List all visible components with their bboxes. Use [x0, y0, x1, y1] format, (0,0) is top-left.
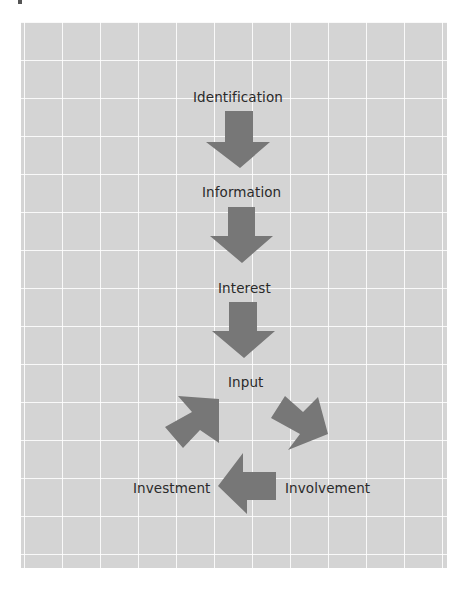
up-right-arrow-icon: [165, 396, 219, 448]
step-label-interest: Interest: [218, 280, 271, 296]
left-arrow-icon: [218, 453, 276, 514]
step-label-information: Information: [202, 184, 281, 200]
down-arrow-icon: [206, 111, 270, 168]
down-arrow-icon: [212, 302, 275, 358]
down-right-arrow-icon: [271, 396, 328, 450]
cycle-label-investment: Investment: [133, 480, 210, 496]
step-label-identification: Identification: [193, 89, 283, 105]
cycle-label-involvement: Involvement: [285, 480, 370, 496]
step-label-input: Input: [228, 374, 263, 390]
down-arrow-icon: [210, 207, 273, 263]
